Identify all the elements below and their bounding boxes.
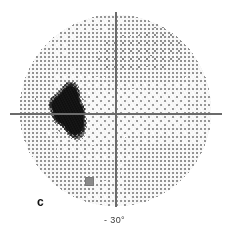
panel-letter-label: c [37, 196, 44, 208]
vertical-meridian-axis [115, 12, 117, 207]
axis-degree-label: - 30° [104, 216, 125, 225]
visual-field-figure: c - 30° [0, 0, 233, 233]
fixation-loss-marker [85, 177, 94, 186]
